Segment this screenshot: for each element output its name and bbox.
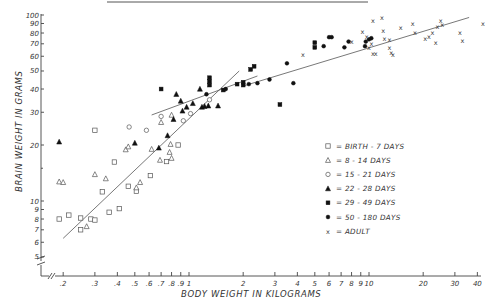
y-tick-label: 5 [35,253,40,261]
y-tick-label: 80 [30,30,39,38]
y-tick-label: 30 [30,109,39,117]
data-point [144,128,148,132]
x-tick-label: 20 [419,280,428,288]
svg-text:x: x [388,36,392,44]
svg-text:x: x [391,51,395,59]
data-point [126,184,130,188]
data-point [181,119,185,123]
scatter-chart: 56789102030405060708090100 .2.3.4.5.6.7.… [0,0,490,302]
legend-label: = 22 - 28 DAYS [336,184,396,193]
x-tick-label: .7 [158,280,165,288]
data-point: x [371,17,375,25]
data-point: x [388,36,392,44]
hollow-square-legend-icon [326,144,330,148]
y-tick-label: 70 [30,40,39,48]
data-point [164,159,168,163]
data-point [157,157,162,162]
svg-text:x: x [481,20,485,28]
regression-line [63,71,239,238]
data-point [103,176,108,181]
legend-label: = 50 - 180 DAYS [336,213,401,222]
legend-item: = 22 - 28 DAYS [326,184,396,193]
x-tick-label: 30 [450,280,459,288]
y-tick-label: 40 [30,86,39,94]
data-point [241,80,245,84]
data-point [224,87,228,91]
data-point [57,139,62,144]
data-point [138,180,143,185]
y-tick-label: 50 [30,67,39,75]
x-tick-label: .9 [177,280,184,288]
svg-text:x: x [369,40,373,48]
solid-triangle-legend-icon [326,186,331,191]
legend-label: = 29 - 49 DAYS [336,198,396,207]
x-tick-label: 7 [339,280,344,288]
data-point [57,179,62,184]
x-tick-label: 1 [187,280,191,288]
data-point [285,61,289,65]
data-point [190,101,195,106]
data-point: x [399,24,403,32]
data-point [78,228,82,232]
data-point [176,143,180,147]
x-tick-label: .4 [114,280,121,288]
legend-item: = 50 - 180 DAYS [326,213,401,222]
hollow-circle-legend-icon [326,172,330,176]
data-point [330,35,334,39]
data-point [252,64,256,68]
y-tick-label: 7 [35,226,40,234]
x-tick-label: .8 [168,280,175,288]
data-point: x [460,37,464,45]
x-axis: .2.3.4.5.6.7.8.912345678910203040 [41,272,482,288]
data-point: x [440,21,444,29]
svg-text:x: x [399,24,403,32]
y-tick-label: 20 [30,142,39,150]
data-point [278,103,282,107]
data-point: x [369,40,373,48]
data-point: x [383,35,387,43]
y-axis: 56789102030405060708090100 [26,12,45,277]
data-point [132,140,137,145]
y-tick-label: 10 [30,198,39,206]
data-point: x [365,33,369,41]
data-point [126,144,131,149]
regression-lines [63,17,469,238]
data-points: xxxxxxxxxxxxxxxxxxxxxxxxxxxxx [57,14,485,232]
svg-text:x: x [383,35,387,43]
data-point [167,149,172,154]
data-point [148,173,152,177]
y-tick-label: 60 [30,53,39,61]
svg-text:x: x [371,17,375,25]
data-point [174,92,179,97]
data-point [291,81,295,85]
x-tick-label: 10 [365,280,374,288]
y-tick-label: 6 [35,239,40,247]
data-point: x [413,29,417,37]
svg-text:x: x [413,29,417,37]
data-point [78,216,82,220]
data-point [207,98,211,102]
svg-text:x: x [350,38,354,46]
solid-square-legend-icon [326,201,330,205]
x-tick-label: 6 [327,280,332,288]
data-point [159,87,163,91]
data-point [235,82,239,86]
data-point [84,224,89,229]
data-point: x [430,29,434,37]
legend-item: x= ADULT [326,227,370,236]
legend-item: = 8 - 14 DAYS [326,156,391,165]
x-axis-title: BODY WEIGHT IN KILOGRAMS [181,289,321,299]
legend-label: = BIRTH - 7 DAYS [336,142,405,151]
data-point: x [481,20,485,28]
data-point [92,172,97,177]
data-point [208,83,212,87]
data-point [322,44,326,48]
data-point [188,111,192,115]
data-point [197,86,202,91]
legend-item: = 29 - 49 DAYS [326,198,396,207]
x-tick-label: .3 [92,280,99,288]
svg-text:x: x [440,21,444,29]
legend-item: = 15 - 21 DAYS [326,170,396,179]
data-point [159,120,164,125]
legend-label: = 15 - 21 DAYS [336,170,396,179]
